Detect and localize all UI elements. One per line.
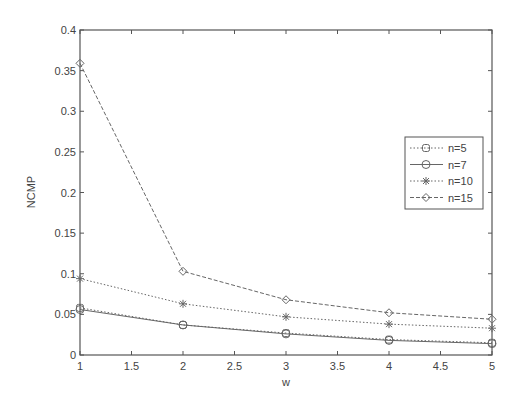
legend: n=5n=7n=10n=15 <box>405 137 483 209</box>
legend-label: n=10 <box>448 175 473 187</box>
x-tick-label: 3 <box>283 360 289 372</box>
x-tick-label: 1.5 <box>124 360 139 372</box>
x-tick-label: 4.5 <box>433 360 448 372</box>
star-marker-icon <box>385 320 393 328</box>
x-axis-label: w <box>281 376 290 388</box>
x-tick-label: 1 <box>77 360 83 372</box>
y-tick-label: 0.15 <box>55 227 76 239</box>
line-chart: 11.522.533.544.5500.050.10.150.20.250.30… <box>0 0 521 407</box>
y-tick-label: 0 <box>70 349 76 361</box>
y-tick-label: 0.4 <box>61 24 76 36</box>
star-marker-icon <box>488 324 496 332</box>
legend-label: n=15 <box>448 192 473 204</box>
x-tick-label: 4 <box>386 360 392 372</box>
y-tick-label: 0.3 <box>61 105 76 117</box>
y-tick-label: 0.05 <box>55 308 76 320</box>
series-n-5 <box>77 304 496 346</box>
diamond-marker-icon <box>179 267 187 275</box>
x-tick-label: 5 <box>489 360 495 372</box>
series-n-7 <box>76 306 496 348</box>
legend-label: n=5 <box>448 142 467 154</box>
x-tick-label: 2.5 <box>227 360 242 372</box>
y-tick-label: 0.25 <box>55 146 76 158</box>
y-tick-label: 0.1 <box>61 268 76 280</box>
star-marker-icon <box>422 177 430 185</box>
y-axis-label: NCMP <box>25 176 37 208</box>
legend-label: n=7 <box>448 159 467 171</box>
x-tick-label: 3.5 <box>330 360 345 372</box>
x-tick-label: 2 <box>180 360 186 372</box>
y-tick-label: 0.2 <box>61 187 76 199</box>
star-marker-icon <box>179 300 187 308</box>
y-tick-label: 0.35 <box>55 65 76 77</box>
star-marker-icon <box>282 313 290 321</box>
star-marker-icon <box>76 275 84 283</box>
